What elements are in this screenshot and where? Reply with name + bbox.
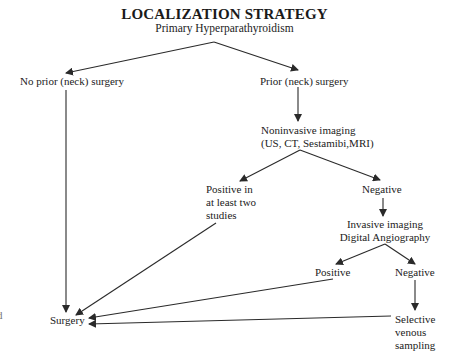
positive-two-line-1: Positive in — [206, 183, 256, 196]
node-noninvasive-imaging: Noninvasive imaging (US, CT, Sestamibi,M… — [261, 124, 374, 150]
selective-line-3: sampling — [395, 339, 435, 352]
edge-root-to-prior — [214, 42, 298, 70]
invasive-line-2: Digital Angiography — [335, 231, 435, 244]
node-positive-two-studies: Positive in at least two studies — [206, 183, 256, 222]
edge-invasive-to-negative — [385, 244, 415, 264]
edge-text-fragment: d — [0, 309, 3, 322]
node-negative-2: Negative — [395, 266, 435, 279]
edge-noninvasive-to-positive — [240, 150, 300, 181]
noninvasive-line-2: (US, CT, Sestamibi,MRI) — [261, 137, 374, 150]
selective-line-2: venous — [395, 326, 435, 339]
node-surgery: Surgery — [50, 314, 85, 327]
invasive-line-1: Invasive imaging — [335, 218, 435, 231]
noninvasive-line-1: Noninvasive imaging — [261, 124, 374, 137]
node-prior-surgery: Prior (neck) surgery — [260, 75, 348, 88]
flowchart-edges — [0, 0, 449, 364]
edge-selective-to-surgery — [89, 316, 391, 324]
edge-root-to-noprior — [66, 42, 214, 73]
edge-invasive-to-positive — [336, 244, 385, 264]
node-no-prior-surgery: No prior (neck) surgery — [20, 75, 124, 88]
edge-positive-to-surgery — [89, 279, 333, 318]
edge-noninvasive-to-negative — [300, 150, 380, 180]
node-negative: Negative — [362, 183, 402, 196]
node-invasive-imaging: Invasive imaging Digital Angiography — [335, 218, 435, 244]
node-positive: Positive — [315, 266, 350, 279]
positive-two-line-2: at least two — [206, 196, 256, 209]
node-selective-venous-sampling: Selective venous sampling — [395, 313, 435, 352]
positive-two-line-3: studies — [206, 209, 256, 222]
selective-line-1: Selective — [395, 313, 435, 326]
